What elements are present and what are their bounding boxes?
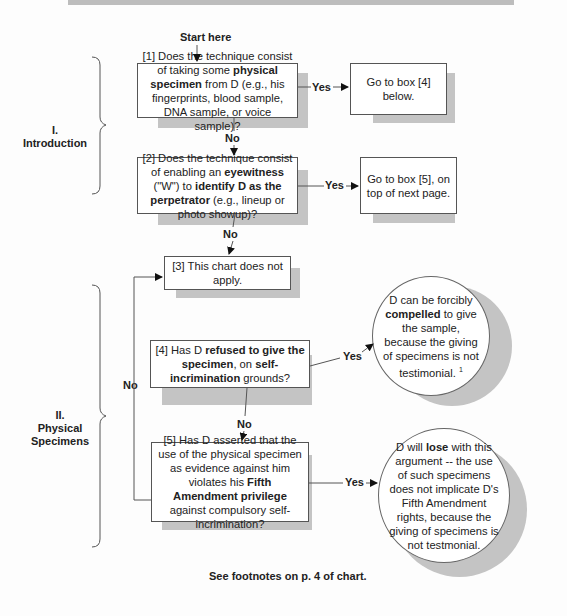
yes-label-2: Yes <box>325 179 344 191</box>
question-box-2: [2] Does the technique consist of enabli… <box>137 157 298 214</box>
section-numeral: II. <box>25 409 95 422</box>
result-box-1: Go to box [4] below. <box>350 63 447 115</box>
section-numeral: I. <box>20 124 90 137</box>
outcome-circle-4: D can be forcibly compelled to give the … <box>372 276 490 396</box>
result-box-2: Go to box [5], on top of next page. <box>360 157 457 214</box>
section-title: Physical Specimens <box>25 422 95 448</box>
section-title: Introduction <box>20 137 90 150</box>
yes-label-4: Yes <box>343 350 362 362</box>
no-label-loop: No <box>123 379 138 391</box>
header-bar <box>68 0 514 5</box>
footer-note: See footnotes on p. 4 of chart. <box>209 570 367 582</box>
terminal-box-3: [3] This chart does not apply. <box>164 256 291 290</box>
yes-label-5: Yes <box>345 476 364 488</box>
start-label: Start here <box>180 31 231 43</box>
outcome-circle-5: D will lose with this argument -- the us… <box>378 428 510 563</box>
question-box-1: [1] Does the technique consist of taking… <box>137 63 298 118</box>
no-label-2: No <box>223 228 238 240</box>
question-box-4: [4] Has D refused to give the specimen, … <box>150 340 310 388</box>
section-introduction: I. Introduction <box>20 124 90 150</box>
section-physical-specimens: II. Physical Specimens <box>25 409 95 448</box>
no-label-1: No <box>225 132 240 144</box>
no-label-4: No <box>237 418 252 430</box>
question-box-5: [5] Has D asserted that the use of the p… <box>151 442 309 522</box>
yes-label-1: Yes <box>312 81 331 93</box>
